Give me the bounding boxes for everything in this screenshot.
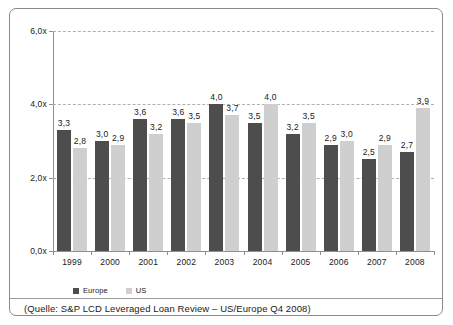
plot-canvas: 0,0x2,0x4,0x6,0x3,32,83,02,93,63,23,63,5… [53, 31, 434, 251]
bar-value-label: 3,5 [188, 111, 200, 121]
x-tick-mark [244, 251, 245, 255]
x-category-label: 2000 [100, 257, 120, 267]
bar-value-label: 3,7 [226, 103, 238, 113]
bar-value-label: 3,2 [150, 122, 162, 132]
bar-us-2008: 3,9 [416, 108, 430, 251]
x-category-label: 2002 [176, 257, 196, 267]
x-tick-mark [91, 251, 92, 255]
bar-value-label: 2,7 [401, 140, 413, 150]
x-tick-mark [396, 251, 397, 255]
bar-value-label: 2,9 [325, 133, 337, 143]
bar-group: 3,02,9 [91, 31, 129, 251]
bar-europe-2006: 2,9 [324, 145, 338, 251]
bar-us-2006: 3,0 [340, 141, 354, 251]
bar-value-label: 4,0 [210, 92, 222, 102]
x-category-label: 2007 [367, 257, 387, 267]
bar-us-2005: 3,5 [302, 123, 316, 251]
bar-group: 3,23,5 [282, 31, 320, 251]
legend-swatch-icon [73, 288, 79, 294]
bar-us-2000: 2,9 [111, 145, 125, 251]
x-category-label: 2004 [253, 257, 273, 267]
bar-value-label: 3,6 [172, 107, 184, 117]
source-caption: (Quelle: S&P LCD Leveraged Loan Review –… [24, 303, 311, 314]
y-tick-label: 2,0x [30, 173, 47, 183]
bar-value-label: 4,0 [264, 92, 276, 102]
bar-value-label: 3,5 [302, 111, 314, 121]
bar-value-label: 3,9 [417, 96, 429, 106]
bar-value-label: 2,5 [363, 147, 375, 157]
x-category-label: 2006 [329, 257, 349, 267]
bar-europe-2004: 3,5 [248, 123, 262, 251]
bar-group: 3,63,5 [167, 31, 205, 251]
bar-group: 3,32,8 [53, 31, 91, 251]
bar-us-2002: 3,5 [187, 123, 201, 251]
bar-europe-2002: 3,6 [171, 119, 185, 251]
bar-value-label: 2,9 [112, 133, 124, 143]
bar-europe-2003: 4,0 [209, 104, 223, 251]
bar-value-label: 3,5 [248, 111, 260, 121]
x-tick-mark [282, 251, 283, 255]
bar-group: 2,73,9 [396, 31, 434, 251]
bar-value-label: 3,0 [341, 129, 353, 139]
x-category-label: 1999 [62, 257, 82, 267]
bar-europe-2001: 3,6 [133, 119, 147, 251]
y-tick-label: 6,0x [30, 26, 47, 36]
bar-us-2007: 2,9 [378, 145, 392, 251]
bar-group: 4,03,7 [205, 31, 243, 251]
bar-group: 2,52,9 [358, 31, 396, 251]
x-tick-mark [205, 251, 206, 255]
x-tick-mark [320, 251, 321, 255]
caption-divider [10, 298, 442, 299]
chart-figure: 0,0x2,0x4,0x6,0x3,32,83,02,93,63,23,63,5… [9, 8, 443, 316]
legend-swatch-icon [126, 288, 132, 294]
bar-value-label: 2,9 [379, 133, 391, 143]
bar-us-2004: 4,0 [264, 104, 278, 251]
legend-item-europe: Europe [73, 286, 108, 295]
bar-europe-2000: 3,0 [95, 141, 109, 251]
bar-europe-1999: 3,3 [57, 130, 71, 251]
x-tick-mark [53, 251, 54, 255]
bar-us-2003: 3,7 [225, 115, 239, 251]
legend-item-us: US [126, 286, 147, 295]
plot-area: 0,0x2,0x4,0x6,0x3,32,83,02,93,63,23,63,5… [10, 9, 444, 261]
bar-value-label: 3,3 [58, 118, 70, 128]
bar-value-label: 3,0 [96, 129, 108, 139]
x-tick-mark [434, 251, 435, 255]
x-tick-mark [358, 251, 359, 255]
bar-value-label: 3,2 [286, 122, 298, 132]
bar-us-2001: 3,2 [149, 134, 163, 251]
bar-group: 3,54,0 [244, 31, 282, 251]
x-tick-mark [167, 251, 168, 255]
legend-label: Europe [83, 286, 108, 295]
y-tick-label: 4,0x [30, 99, 47, 109]
bar-group: 2,93,0 [320, 31, 358, 251]
x-category-label: 2003 [215, 257, 235, 267]
x-category-label: 2001 [138, 257, 158, 267]
bar-us-1999: 2,8 [73, 148, 87, 251]
x-tick-mark [129, 251, 130, 255]
bar-value-label: 2,8 [74, 136, 86, 146]
bar-europe-2007: 2,5 [362, 159, 376, 251]
legend-label: US [136, 286, 147, 295]
chart-legend: EuropeUS [73, 286, 146, 295]
bar-value-label: 3,6 [134, 107, 146, 117]
bar-group: 3,63,2 [129, 31, 167, 251]
x-category-label: 2005 [291, 257, 311, 267]
bar-europe-2008: 2,7 [400, 152, 414, 251]
x-category-label: 2008 [405, 257, 425, 267]
bar-europe-2005: 3,2 [286, 134, 300, 251]
y-tick-label: 0,0x [30, 246, 47, 256]
